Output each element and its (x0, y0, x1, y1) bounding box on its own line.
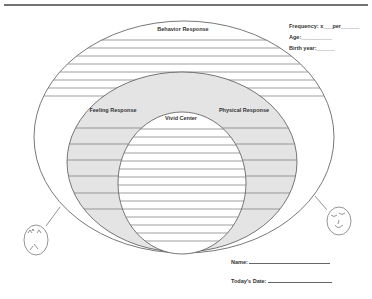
age-field[interactable]: Age:__________ (289, 34, 332, 40)
frequency-label: Frequency: x___per______ (289, 23, 359, 29)
birth-year-label: Birth year:______ (289, 45, 335, 51)
name-field[interactable]: Name: (231, 258, 330, 265)
vivid-center-label: Vivid Center (165, 115, 198, 121)
physical-response-label: Physical Response (219, 107, 269, 113)
date-label: Today's Date: (231, 278, 266, 284)
age-label: Age:__________ (289, 34, 332, 40)
name-blank[interactable] (249, 258, 330, 264)
birth-year-field[interactable]: Birth year:______ (289, 45, 335, 51)
angry-face-icon (24, 207, 60, 255)
name-label: Name: (231, 259, 248, 265)
frequency-field[interactable]: Frequency: x___per______ (289, 23, 359, 29)
date-blank[interactable] (268, 277, 332, 283)
behavior-response-label: Behavior Response (157, 26, 208, 32)
date-field[interactable]: Today's Date: (231, 277, 332, 284)
calm-face-icon (315, 196, 351, 235)
feeling-response-label: Feeling Response (89, 107, 136, 113)
worksheet: Behavior Response Feeling Response Physi… (0, 0, 372, 299)
